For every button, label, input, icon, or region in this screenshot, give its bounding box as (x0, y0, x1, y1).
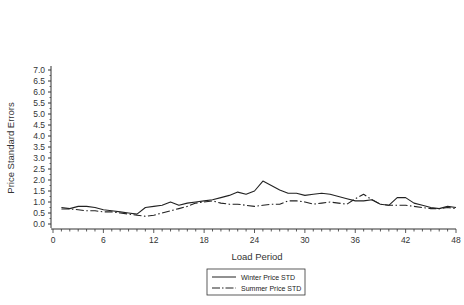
y-axis-title: Price Standard Errors (5, 102, 16, 194)
x-tick-label: 6 (101, 235, 106, 245)
series-layer (61, 181, 456, 216)
y-tick-label: 2.0 (33, 175, 45, 185)
y-tick-label: 0.5 (33, 208, 45, 218)
y-tick-label: 1.0 (33, 197, 45, 207)
y-tick-label: 7.0 (33, 65, 45, 75)
y-tick-label: 5.0 (33, 109, 45, 119)
y-tick-label: 3.5 (33, 142, 45, 152)
winter-price-std-line (61, 181, 456, 214)
y-tick-label: 6.0 (33, 87, 45, 97)
x-tick-label: 18 (199, 235, 209, 245)
x-tick-label: 12 (149, 235, 159, 245)
x-tick-label: 36 (351, 235, 361, 245)
x-tick-label: 0 (51, 235, 56, 245)
x-tick-label: 30 (300, 235, 310, 245)
x-tick-label: 48 (451, 235, 461, 245)
y-tick-label: 6.5 (33, 76, 45, 86)
y-tick-label: 3.0 (33, 153, 45, 163)
y-tick-label: 5.5 (33, 98, 45, 108)
x-axis-title: Load Period (231, 251, 282, 262)
x-axis: 0612182430364248 (51, 229, 461, 245)
y-tick-label: 2.5 (33, 164, 45, 174)
y-tick-label: 0.0 (33, 219, 45, 229)
y-tick-label: 4.5 (33, 120, 45, 130)
x-tick-label: 42 (401, 235, 411, 245)
y-tick-label: 4.0 (33, 131, 45, 141)
line-chart: 0.00.51.01.52.02.53.03.54.04.55.05.56.06… (0, 0, 464, 305)
legend-summer-label: Summer Price STD (241, 285, 301, 292)
legend: Winter Price STD Summer Price STD (207, 269, 305, 295)
legend-winter-label: Winter Price STD (241, 274, 295, 281)
x-tick-label: 24 (250, 235, 260, 245)
y-tick-label: 1.5 (33, 186, 45, 196)
y-axis: 0.00.51.01.52.02.53.03.54.04.55.05.56.06… (33, 65, 51, 229)
